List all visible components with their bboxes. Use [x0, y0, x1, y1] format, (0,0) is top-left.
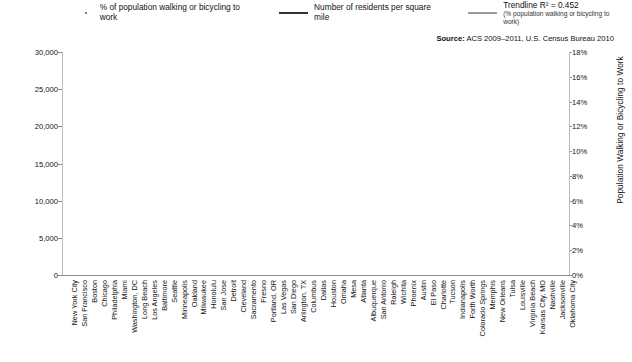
- plot-area: [62, 52, 570, 275]
- y-axis-left-ticks: 05,00010,00015,00020,00025,00030,000: [24, 52, 58, 275]
- x-label-19: Fresno: [259, 280, 268, 360]
- x-label-10: Seattle: [170, 280, 179, 360]
- x-label-31: San Antonio: [379, 280, 388, 360]
- x-label-17: Cleveland: [239, 280, 248, 360]
- source-prefix: Source:: [436, 34, 464, 43]
- y-axis-title-right: Population Walking or Bicycling to Work: [615, 30, 625, 230]
- x-label-47: Kansas City, MO: [538, 280, 547, 360]
- legend-label-trend-main: Trendline R² = 0.452: [503, 0, 579, 10]
- scatter-dot-icon: [80, 8, 94, 18]
- x-label-45: Louisville: [518, 280, 527, 360]
- legend-label-trend-sub: (% population walking or bicycling to wo…: [503, 10, 625, 25]
- y-tick-left-2: 10,000: [35, 196, 58, 205]
- y-tick-right-8: 16%: [572, 72, 587, 81]
- chart-legend: % of population walking or bicycling to …: [80, 2, 625, 24]
- y-tick-right-6: 12%: [572, 122, 587, 131]
- x-label-8: Los Angeles: [150, 280, 159, 360]
- source-note: Source: ACS 2009–2011, U.S. Census Burea…: [436, 34, 614, 43]
- x-axis-line: [62, 275, 570, 276]
- trendline-swatch-icon: [468, 12, 497, 13]
- x-label-6: Washington, DC: [130, 280, 139, 360]
- x-label-48: Nashville: [548, 280, 557, 360]
- x-label-11: Minneapolis: [180, 280, 189, 360]
- x-label-40: Forth Worth: [468, 280, 477, 360]
- x-label-30: Albuquerque: [369, 280, 378, 360]
- legend-item-scatter: % of population walking or bicycling to …: [80, 3, 257, 22]
- x-label-16: Detroit: [229, 280, 238, 360]
- x-label-14: Honolulu: [209, 280, 218, 360]
- x-label-44: Tulsa: [508, 280, 517, 360]
- y-axis-right-ticks: 0%2%4%6%8%10%12%14%16%18%: [572, 52, 606, 275]
- y-tick-right-3: 6%: [572, 196, 583, 205]
- x-axis-labels: New York CitySan FranciscoBostonChicagoP…: [62, 278, 570, 362]
- y-tick-right-1: 2%: [572, 246, 583, 255]
- x-label-32: Raleigh: [389, 280, 398, 360]
- y-tick-left-3: 15,000: [35, 159, 58, 168]
- x-label-3: Chicago: [100, 280, 109, 360]
- legend-label-scatter: % of population walking or bicycling to …: [100, 3, 257, 22]
- y-tick-right-9: 18%: [572, 48, 587, 57]
- x-label-5: Miami: [120, 280, 129, 360]
- y-tick-right-2: 4%: [572, 221, 583, 230]
- x-label-18: Sacramento: [249, 280, 258, 360]
- x-label-15: San Jose: [219, 280, 228, 360]
- plot-background: [62, 52, 570, 275]
- x-label-22: San Diego: [289, 280, 298, 360]
- y-tick-right-5: 10%: [572, 147, 587, 156]
- legend-label-trend: Trendline R² = 0.452 (% population walki…: [503, 1, 625, 26]
- x-label-28: Mesa: [349, 280, 358, 360]
- x-label-41: Colorado Springs: [478, 280, 487, 360]
- x-label-26: Houston: [329, 280, 338, 360]
- y-tick-right-4: 8%: [572, 171, 583, 180]
- source-text: ACS 2009–2011, U.S. Census Bureau 2010: [465, 34, 614, 43]
- x-label-23: Arlington, TX: [299, 280, 308, 360]
- x-label-29: Atlanta: [359, 280, 368, 360]
- legend-label-line: Number of residents per square mile: [314, 3, 446, 22]
- x-label-35: Austin: [419, 280, 428, 360]
- x-label-9: Baltimore: [160, 280, 169, 360]
- x-label-46: Virginia Beach: [528, 280, 537, 360]
- x-label-42: Memphis: [488, 280, 497, 360]
- y-tick-right-7: 14%: [572, 97, 587, 106]
- x-label-0: New York City: [70, 280, 79, 360]
- x-label-38: Tucson: [448, 280, 457, 360]
- x-label-25: Dallas: [319, 280, 328, 360]
- x-label-4: Philadelphia: [110, 280, 119, 360]
- x-label-49: Jacksonville: [558, 280, 567, 360]
- y-tick-left-5: 25,000: [35, 85, 58, 94]
- y-tick-left-1: 5,000: [39, 233, 58, 242]
- x-label-24: Columbus: [309, 280, 318, 360]
- x-label-13: Milwaukee: [199, 280, 208, 360]
- x-label-36: El Paso: [429, 280, 438, 360]
- x-label-20: Portland, OR: [269, 280, 278, 360]
- line-swatch-icon: [279, 12, 308, 14]
- x-label-27: Omaha: [339, 280, 348, 360]
- legend-item-trend: Trendline R² = 0.452 (% population walki…: [468, 1, 625, 26]
- x-label-7: Long Beach: [140, 280, 149, 360]
- x-label-37: Charlotte: [439, 280, 448, 360]
- chart-root: % of population walking or bicycling to …: [0, 0, 632, 362]
- x-label-2: Boston: [90, 280, 99, 360]
- x-label-43: New Orleans: [498, 280, 507, 360]
- x-label-12: Oakland: [190, 280, 199, 360]
- y-tick-left-4: 20,000: [35, 122, 58, 131]
- x-label-21: Las Vegas: [279, 280, 288, 360]
- x-label-1: San Francisco: [80, 280, 89, 360]
- x-label-39: Indianapolis: [458, 280, 467, 360]
- x-label-33: Wichita: [399, 280, 408, 360]
- x-label-34: Phoenix: [409, 280, 418, 360]
- y-tick-left-6: 30,000: [35, 48, 58, 57]
- x-label-50: Oklahoma City: [568, 280, 577, 360]
- legend-item-line: Number of residents per square mile: [279, 3, 446, 22]
- y-tick-right-0: 0%: [572, 271, 583, 280]
